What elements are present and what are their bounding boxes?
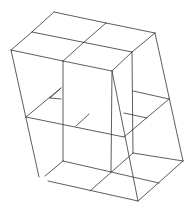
mid-left-stub-h: [50, 98, 61, 99]
mid-center-stub: [76, 114, 89, 126]
top-front-edge-b: [63, 61, 112, 71]
wireframe-box-diagram: [0, 0, 192, 207]
diagram-edges: [11, 12, 183, 201]
top-left-edge-a: [32, 12, 54, 32]
bottom-back-left: [63, 161, 111, 172]
inner-vertical-front: [111, 71, 112, 172]
top-right-edge-b: [112, 52, 132, 71]
bottom-left-diag: [45, 161, 63, 176]
top-back-edge-a: [54, 12, 106, 23]
top-mid-col-b: [63, 43, 83, 61]
bottom-back-right: [133, 153, 183, 161]
top-right-edge-a: [132, 33, 155, 52]
top-mid-col-a: [83, 23, 106, 43]
bottom-mid-row: [111, 172, 159, 183]
bottom-right-edge: [138, 161, 183, 201]
top-back-edge-b: [106, 23, 155, 33]
inner-vertical-right: [132, 52, 133, 153]
mid-left-edge: [26, 88, 61, 117]
mid-back-right: [133, 91, 169, 99]
mid-front-edge: [26, 117, 124, 137]
mid-right-stub: [124, 113, 147, 118]
top-mid-row: [32, 32, 132, 52]
top-left-edge-b: [11, 32, 32, 50]
bottom-front-edge: [48, 181, 138, 201]
left-vertical-edge: [11, 50, 39, 177]
top-front-edge-a: [11, 50, 63, 61]
